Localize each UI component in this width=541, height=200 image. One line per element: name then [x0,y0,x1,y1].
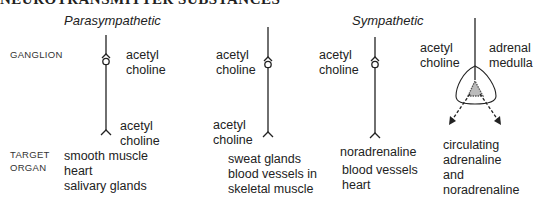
p3-neuron [370,37,380,138]
arrow-left-icon [449,116,456,125]
p2-neuron [263,27,273,137]
arrowheads [449,116,501,125]
p1-preganglionic-neuron [101,35,111,135]
p4-adrenal-medulla [452,18,498,120]
arrow-right-icon [494,116,501,125]
neuron-drawings [0,0,541,200]
